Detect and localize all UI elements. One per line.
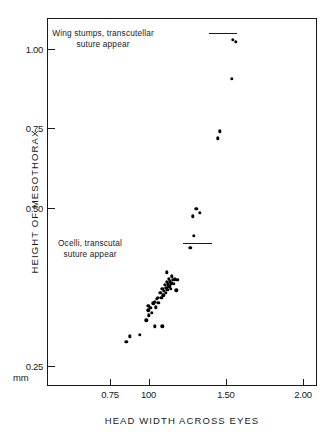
x-tick bbox=[303, 379, 304, 386]
y-tick bbox=[48, 366, 55, 367]
x-axis-title: HEAD WIDTH ACROSS EYES bbox=[47, 415, 317, 426]
x-tick-label: 2.00 bbox=[294, 389, 311, 400]
scatter-plot-figure: 0.751001.502.00 1.000.750.500.25 Wing st… bbox=[0, 0, 336, 441]
x-tick-label: 1.50 bbox=[217, 389, 234, 400]
y-tick bbox=[48, 128, 55, 129]
y-tick bbox=[48, 49, 55, 50]
y-tick bbox=[48, 208, 55, 209]
ocelli-annotation-line1: Ocelli, transcutal bbox=[0, 238, 180, 249]
x-tick bbox=[110, 379, 111, 386]
wing-stumps-annotation-line1: Wing stumps, transcutellar bbox=[0, 28, 206, 39]
plot-frame bbox=[47, 18, 317, 386]
y-axis-title: HEIGHT OF MESOTHORAX bbox=[29, 72, 40, 332]
x-tick-label: 0.75 bbox=[101, 389, 118, 400]
x-tick bbox=[149, 379, 150, 386]
wing-stumps-annotation-line2: suture appear bbox=[0, 39, 206, 50]
y-axis-unit-label: mm bbox=[13, 372, 28, 383]
x-tick bbox=[226, 379, 227, 386]
wing-stumps-annotation: Wing stumps, transcutellarsuture appear bbox=[0, 28, 206, 49]
y-tick-label: 0.25 bbox=[5, 361, 43, 372]
x-tick-label: 100 bbox=[141, 389, 156, 400]
ocelli-annotation-line2: suture appear bbox=[0, 249, 180, 260]
ocelli-annotation-leader-line bbox=[183, 243, 212, 244]
ocelli-annotation: Ocelli, transcutalsuture appear bbox=[0, 238, 180, 259]
wing-stumps-annotation-leader-line bbox=[209, 33, 237, 34]
